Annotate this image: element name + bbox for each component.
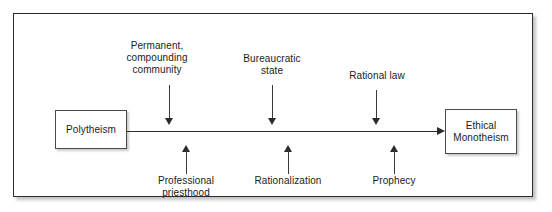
main-flow-arrowhead-icon [437,127,445,135]
label-rational-law: Rational law [334,70,420,82]
main-flow-line [127,131,439,132]
connector-rational-law [376,90,377,120]
connector-bureaucratic-state [272,85,273,120]
connector-professional-priesthood [186,150,187,174]
node-ethical-monotheism: Ethical Monotheism [445,109,517,154]
arrow-down-icon-rational-law [372,118,380,125]
connector-permanent-compounding-community [169,85,170,120]
label-rationalization: Rationalization [245,175,331,187]
label-permanent-compounding-community: Permanent, compounding community [114,40,200,76]
label-prophecy: Prophecy [351,175,437,187]
arrow-down-icon-bureaucratic-state [268,118,276,125]
figure-panel-border: Polytheism Ethical Monotheism Permanent,… [13,13,533,197]
label-professional-priesthood: Professional priesthood [143,175,229,199]
connector-rationalization [288,150,289,174]
connector-prophecy [394,150,395,174]
label-bureaucratic-state: Bureaucratic state [229,53,315,77]
arrow-down-icon-permanent-compounding-community [165,118,173,125]
node-ethical-monotheism-label: Ethical Monotheism [453,120,508,144]
figure-root: Polytheism Ethical Monotheism Permanent,… [0,0,552,212]
node-polytheism-label: Polytheism [66,124,116,136]
node-polytheism: Polytheism [55,110,127,149]
